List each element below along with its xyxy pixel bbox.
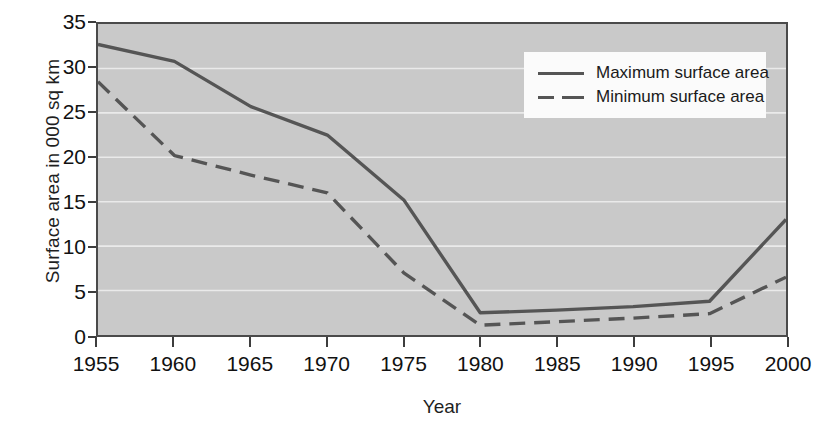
y-tick-label: 0 [28,326,86,347]
x-tick-mark [479,337,481,347]
y-tick-label: 5 [28,281,86,302]
y-tick-mark [88,66,96,68]
legend-item: Minimum surface area [538,85,766,109]
y-tick-label: 15 [28,191,86,212]
solid-line-icon [538,67,584,79]
y-tick-mark [88,21,96,23]
legend-label: Maximum surface area [596,63,769,83]
x-tick-mark [403,337,405,347]
line-chart-figure: Surface area in 000 sq km 05101520253035… [0,0,836,433]
y-tick-mark [88,201,96,203]
legend-label: Minimum surface area [596,87,764,107]
dashed-line-icon [538,91,584,103]
x-tick-mark [787,337,789,347]
y-tick-mark [88,111,96,113]
y-tick-mark [88,156,96,158]
x-tick-mark [249,337,251,347]
y-tick-mark [88,291,96,293]
legend-item: Maximum surface area [538,61,766,85]
y-tick-label: 20 [28,146,86,167]
y-tick-label: 35 [28,11,86,32]
y-tick-mark [88,246,96,248]
series-line [98,82,786,325]
y-tick-label: 30 [28,56,86,77]
x-axis-title: Year [96,396,788,418]
x-tick-mark [326,337,328,347]
x-tick-mark [95,337,97,347]
x-tick-mark [710,337,712,347]
x-tick-label: 2000 [743,352,833,376]
x-tick-mark [633,337,635,347]
y-tick-label: 25 [28,101,86,122]
x-tick-mark [172,337,174,347]
chart-legend: Maximum surface areaMinimum surface area [524,52,766,118]
x-tick-mark [556,337,558,347]
y-tick-label: 10 [28,236,86,257]
